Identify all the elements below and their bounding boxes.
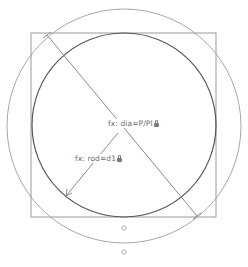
radius-dimension-line[interactable] [66,133,118,196]
radius-constraint-label[interactable]: fx: rod=d1 [74,154,123,163]
sketch-point[interactable] [122,250,126,254]
sketch-canvas[interactable] [0,0,248,267]
diameter-tick-end [193,213,201,219]
lock-icon [117,158,122,162]
diameter-constraint-text: fx: dia=P/PI [108,119,153,128]
diameter-constraint-label[interactable]: fx: dia=P/PI [107,119,160,128]
lock-icon [154,123,159,127]
radius-constraint-text: fx: rod=d1 [75,154,116,163]
sketch-point[interactable] [122,226,126,230]
